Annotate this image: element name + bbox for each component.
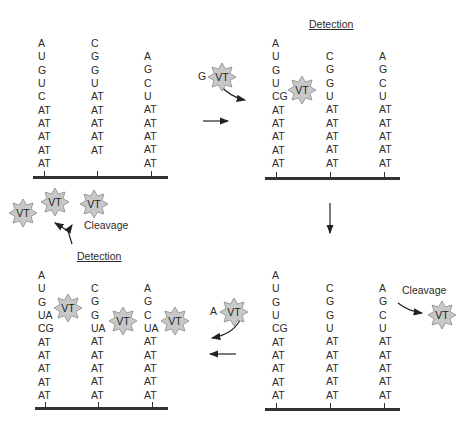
base: AT xyxy=(38,349,54,362)
vt-probe: VT xyxy=(8,198,38,228)
base: AT xyxy=(326,375,339,388)
solid-support xyxy=(35,407,168,410)
base: AT xyxy=(379,362,392,375)
base: UA xyxy=(144,322,159,335)
base: AT xyxy=(272,104,288,117)
base: AT xyxy=(326,157,339,170)
vt-probe: VT xyxy=(427,300,457,330)
base: AT xyxy=(272,349,288,362)
base: AT xyxy=(272,389,288,402)
base: G xyxy=(326,63,339,76)
base: AT xyxy=(38,336,54,349)
base: G xyxy=(379,63,392,76)
base: AT xyxy=(326,362,339,375)
base: U xyxy=(272,50,288,63)
base: AT xyxy=(144,375,159,388)
base: G xyxy=(326,295,339,308)
base: C xyxy=(326,282,339,295)
base: U xyxy=(326,322,339,335)
vt-label: VT xyxy=(79,189,109,219)
base: AT xyxy=(326,143,339,156)
tether xyxy=(384,172,385,178)
solid-support xyxy=(265,177,400,180)
vt-probe: VT xyxy=(40,187,70,217)
base: G xyxy=(38,64,51,77)
base: AT xyxy=(38,104,51,117)
base: AT xyxy=(326,103,339,116)
tether xyxy=(384,403,385,409)
base: AT xyxy=(272,157,288,170)
base: AT xyxy=(326,349,339,362)
strand-1: A U G UA CG AT AT AT AT AT xyxy=(38,269,54,402)
base: AT xyxy=(144,349,159,362)
base: U xyxy=(91,77,104,90)
base: AT xyxy=(379,349,392,362)
base: AT xyxy=(379,335,392,348)
vt-label: VT xyxy=(207,62,237,92)
base: U xyxy=(379,90,392,103)
strand-3: A G C UA AT AT AT AT AT xyxy=(144,282,159,402)
base: G xyxy=(144,295,159,308)
base: G xyxy=(144,63,157,76)
vt-label: VT xyxy=(8,198,38,228)
base: C xyxy=(91,282,106,295)
base: AT xyxy=(379,389,392,402)
base: C xyxy=(38,90,51,103)
base: AT xyxy=(38,157,51,170)
base: UA xyxy=(91,322,106,335)
base: C xyxy=(379,309,392,322)
tether xyxy=(97,171,98,177)
base: AT xyxy=(272,376,288,389)
base: G xyxy=(91,50,104,63)
strand-2: C G G UA AT AT AT AT AT xyxy=(91,282,106,402)
vt-label: VT xyxy=(53,293,83,323)
strand-2: C G G U AT AT AT AT AT xyxy=(91,37,104,157)
base: U xyxy=(38,77,51,90)
tether xyxy=(151,171,152,177)
detection-title: Detection xyxy=(309,18,353,30)
vt-label: VT xyxy=(219,297,249,327)
strand-2: C G G U AT AT AT AT AT xyxy=(326,50,339,170)
base: AT xyxy=(326,130,339,143)
cleavage-label: Cleavage xyxy=(84,219,128,231)
base: AT xyxy=(272,130,288,143)
base: AT xyxy=(379,375,392,388)
base: AT xyxy=(379,157,392,170)
strand-3: A G C U AT AT AT AT AT xyxy=(379,50,392,170)
tether xyxy=(44,171,45,177)
base: UA xyxy=(38,309,54,322)
base: G xyxy=(91,295,106,308)
cleavage-arrow-icon xyxy=(398,303,422,313)
base: AT xyxy=(91,144,104,157)
vt-label: VT xyxy=(40,187,70,217)
base: U xyxy=(379,322,392,335)
vt-label: VT xyxy=(427,300,457,330)
vt-probe: VT xyxy=(160,306,190,336)
base: AT xyxy=(38,389,54,402)
base: AT xyxy=(38,117,51,130)
base: AT xyxy=(91,375,106,388)
base: AT xyxy=(379,130,392,143)
tether xyxy=(276,403,277,409)
base: CG xyxy=(38,322,54,335)
vt-label: VT xyxy=(108,306,138,336)
base: G xyxy=(326,77,339,90)
base: AT xyxy=(38,144,51,157)
base: AT xyxy=(144,130,157,143)
base: A xyxy=(144,282,159,295)
detection-title: Detection xyxy=(77,250,121,262)
tether xyxy=(152,402,153,408)
base: C xyxy=(91,37,104,50)
incoming-nucleotide: A xyxy=(210,305,217,317)
base: AT xyxy=(91,349,106,362)
base: U xyxy=(38,50,51,63)
base: G xyxy=(272,64,288,77)
base: A xyxy=(272,269,288,282)
base: AT xyxy=(326,389,339,402)
base: AT xyxy=(38,130,51,143)
vt-probe: VT xyxy=(108,306,138,336)
base: AT xyxy=(144,103,157,116)
base: AT xyxy=(144,389,159,402)
strand-2: C G G U AT AT AT AT AT xyxy=(326,282,339,402)
base: AT xyxy=(38,362,54,375)
